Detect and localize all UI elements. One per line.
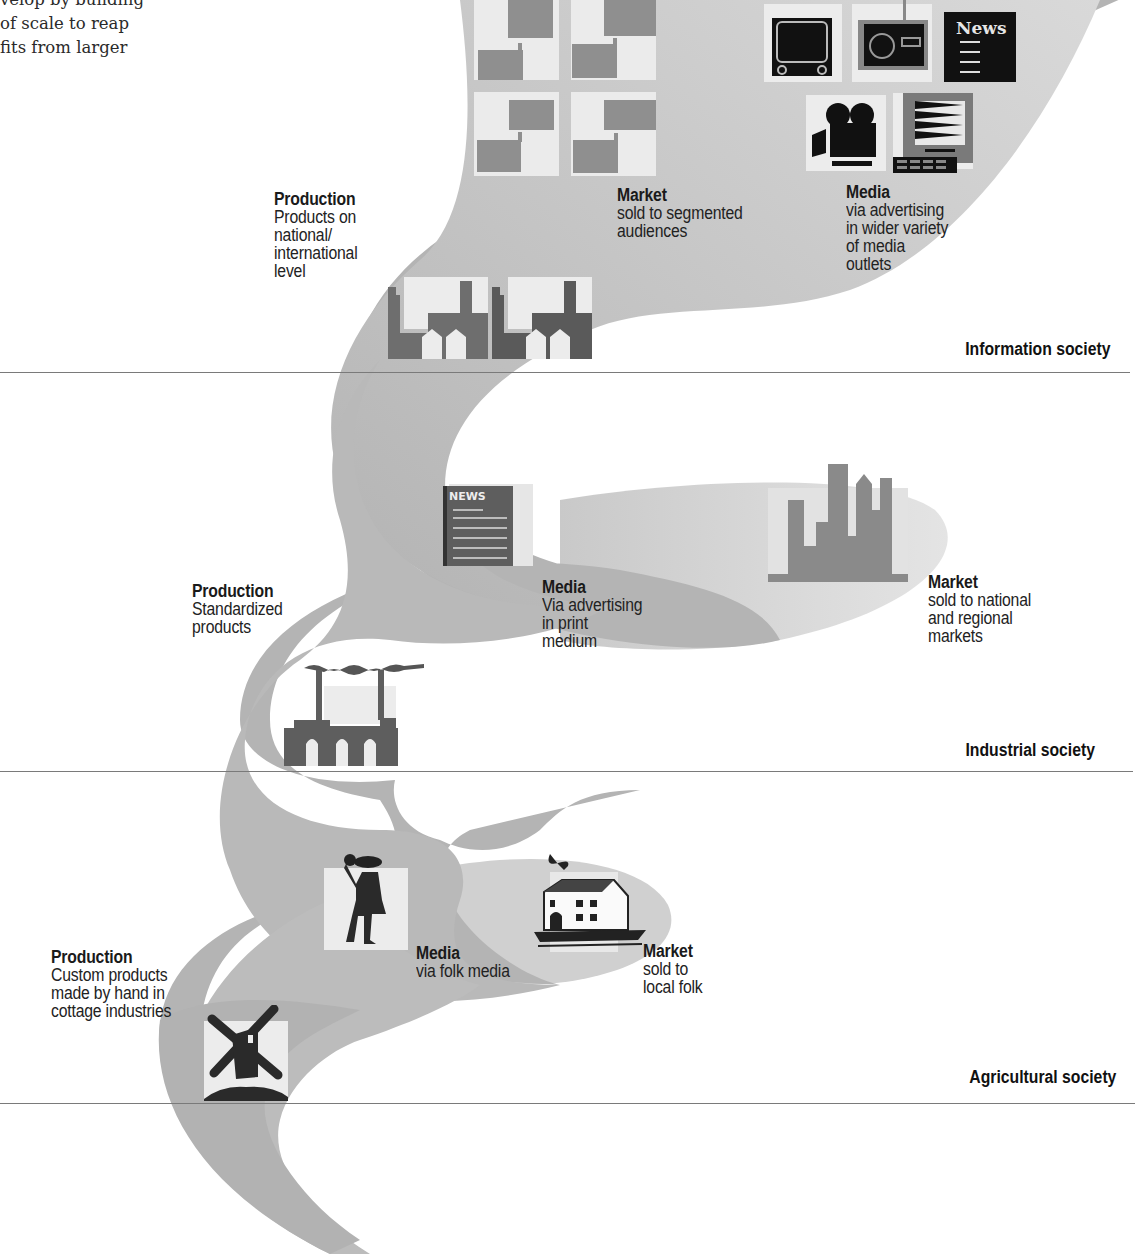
print-newspaper-title: NEWS [449,490,486,503]
smokestack-factory-icon [284,660,424,768]
ind-market-label: Market sold to national and regional mar… [928,573,1031,645]
agri-media-heading: Media [416,944,510,962]
info-market-body: sold to segmented audiences [617,204,743,240]
print-newspaper-icon: NEWS [443,484,533,566]
agri-production-body: Custom products made by hand in cottage … [51,966,171,1020]
ind-media-label: Media Via advertising in print medium [542,578,642,650]
factory-grid-icon [474,0,660,176]
agri-production-label: Production Custom products made by hand … [51,948,171,1020]
info-media-heading: Media [846,183,948,201]
cottage-icon [534,850,646,952]
computer-icon [893,93,973,173]
agri-media-body: via folk media [416,962,510,980]
agri-production-heading: Production [51,948,171,966]
city-skyline-icon [768,464,908,582]
info-production-body: Products on national/ international leve… [274,208,357,280]
radio-icon [852,0,932,82]
info-media-label: Media via advertising in wider variety o… [846,183,948,273]
agri-media-label: Media via folk media [416,944,510,980]
info-market-heading: Market [617,186,743,204]
newspaper-title: News [956,18,1007,38]
info-production-label: Production Products on national/ interna… [274,190,357,280]
ind-market-body: sold to national and regional markets [928,591,1031,645]
era-label-agricultural: Agricultural society [969,1067,1116,1088]
info-market-label: Market sold to segmented audiences [617,186,743,240]
ind-production-body: Standardized products [192,600,283,636]
info-production-heading: Production [274,190,357,208]
era-divider-agricultural [0,1103,1135,1104]
ind-production-label: Production Standardized products [192,582,283,636]
agri-market-body: sold to local folk [643,960,702,996]
television-icon [764,4,842,82]
ind-market-heading: Market [928,573,1031,591]
era-label-industrial: Industrial society [965,740,1095,761]
newspaper-icon: News [944,12,1016,82]
era-divider-industrial [0,771,1133,772]
movie-camera-icon [806,95,886,171]
town-crier-icon [322,850,410,950]
era-divider-information [0,372,1130,373]
intro-paragraph: velop by building of scale to reap fits … [0,0,144,60]
info-media-body: via advertising in wider variety of medi… [846,201,948,273]
ind-production-heading: Production [192,582,283,600]
windmill-icon [202,1005,288,1101]
modern-factory-icon [388,273,592,359]
era-label-information: Information society [965,339,1110,360]
agri-market-label: Market sold to local folk [643,942,702,996]
ind-media-heading: Media [542,578,642,596]
agri-market-heading: Market [643,942,702,960]
ind-media-body: Via advertising in print medium [542,596,642,650]
